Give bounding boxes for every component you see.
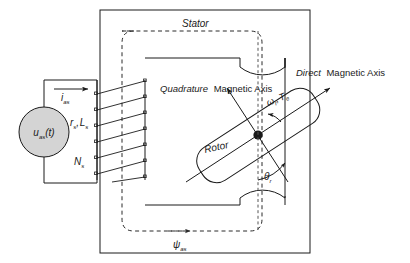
direct-axis-label: Direct Magnetic Axis [296, 67, 385, 78]
stator-outer-frame [100, 10, 310, 253]
voltage-source-symbol [19, 107, 69, 157]
flux-path-dashed [122, 31, 262, 231]
stator-impedance-label: rs,Ls [70, 117, 88, 130]
quadrature-axis-label: Quadrature Magnetic Axis [160, 83, 273, 94]
rotor-label: Rotor [203, 139, 230, 155]
rotor-angle-label: θr [264, 171, 272, 184]
diagram-canvas: Stator Quadrature Magnetic Axis Direct M… [0, 0, 410, 263]
machine-cross-section-figure: Stator Quadrature Magnetic Axis Direct M… [0, 0, 410, 263]
winding-turns [97, 81, 145, 182]
stator-current-label: ias [61, 92, 70, 105]
stator-label: Stator [182, 18, 209, 29]
turns-label: Ns [74, 156, 84, 169]
flux-linkage-label: ψas [173, 239, 187, 252]
